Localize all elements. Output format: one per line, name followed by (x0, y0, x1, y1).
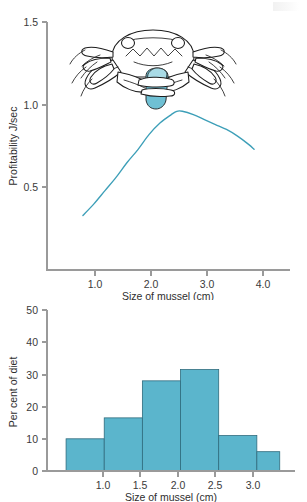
diet-histogram-svg: 50 40 30 20 10 0 1.0 1.5 2.0 2.5 3.0 Per… (0, 300, 307, 502)
profitability-ytick-3: 0.5 (23, 181, 38, 193)
histogram-xtick-3: 2.0 (171, 479, 186, 491)
histogram-ytick-20: 20 (26, 401, 38, 413)
histogram-ytick-40: 40 (26, 336, 38, 348)
profitability-xtick-2: 2.0 (144, 278, 159, 290)
histogram-bar (142, 381, 180, 471)
profitability-curve-line (83, 111, 254, 216)
diet-histogram-chart: 50 40 30 20 10 0 1.0 1.5 2.0 2.5 3.0 Per… (0, 300, 307, 502)
histogram-bar-group (66, 370, 280, 471)
profitability-chart: 1.5 1.0 0.5 1.0 2.0 3.0 4.0 Profitabilit… (0, 0, 307, 300)
histogram-bar (257, 452, 280, 471)
histogram-ytick-0: 0 (32, 465, 38, 477)
profitability-ylabel: Profitability J/sec (7, 107, 19, 186)
histogram-ylabel: Per cent of diet (7, 357, 19, 428)
histogram-bar (181, 370, 219, 471)
histogram-xlabel: Size of mussel (cm) (125, 491, 217, 502)
histogram-ytick-10: 10 (26, 433, 38, 445)
profitability-xtick-4: 4.0 (256, 278, 271, 290)
histogram-bar (104, 418, 142, 471)
histogram-xtick-4: 2.5 (208, 479, 223, 491)
histogram-xtick-5: 3.0 (246, 479, 261, 491)
histogram-ytick-30: 30 (26, 369, 38, 381)
profitability-xtick-1: 1.0 (88, 278, 103, 290)
profitability-xtick-3: 3.0 (200, 278, 215, 290)
histogram-xtick-2: 1.5 (133, 479, 148, 491)
histogram-ytick-50: 50 (26, 304, 38, 316)
histogram-xtick-1: 1.0 (96, 479, 111, 491)
profitability-xlabel: Size of mussel (cm) (122, 290, 214, 300)
histogram-bar (219, 436, 257, 471)
profitability-ytick-2: 1.0 (23, 99, 38, 111)
profitability-chart-svg: 1.5 1.0 0.5 1.0 2.0 3.0 4.0 Profitabilit… (0, 0, 307, 300)
profitability-ytick-1: 1.5 (23, 16, 38, 28)
histogram-bar (66, 439, 104, 471)
crab-holding-mussel-illustration (70, 30, 236, 109)
